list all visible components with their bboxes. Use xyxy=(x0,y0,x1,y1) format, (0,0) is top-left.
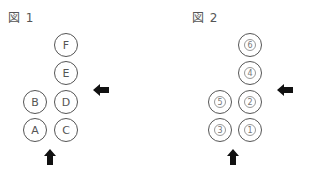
circle-1: 1 xyxy=(238,118,262,142)
circle-b: B xyxy=(23,90,47,114)
circle-5: 5 xyxy=(208,90,232,114)
circle-a: A xyxy=(23,118,47,142)
circle-2: 2 xyxy=(238,90,262,114)
circle-f: F xyxy=(54,33,78,57)
arrow-up-icon xyxy=(44,149,56,165)
figure-2-title: 図 2 xyxy=(192,8,218,25)
circle-e: E xyxy=(54,61,78,85)
circle-3: 3 xyxy=(208,118,232,142)
figure-1-title: 図 1 xyxy=(8,8,34,25)
arrow-left-icon xyxy=(93,84,109,96)
circle-d: D xyxy=(54,90,78,114)
arrow-left-icon xyxy=(277,84,293,96)
circle-4: 4 xyxy=(238,61,262,85)
arrow-up-icon xyxy=(227,149,239,165)
circle-6: 6 xyxy=(238,33,262,57)
circle-c: C xyxy=(54,118,78,142)
